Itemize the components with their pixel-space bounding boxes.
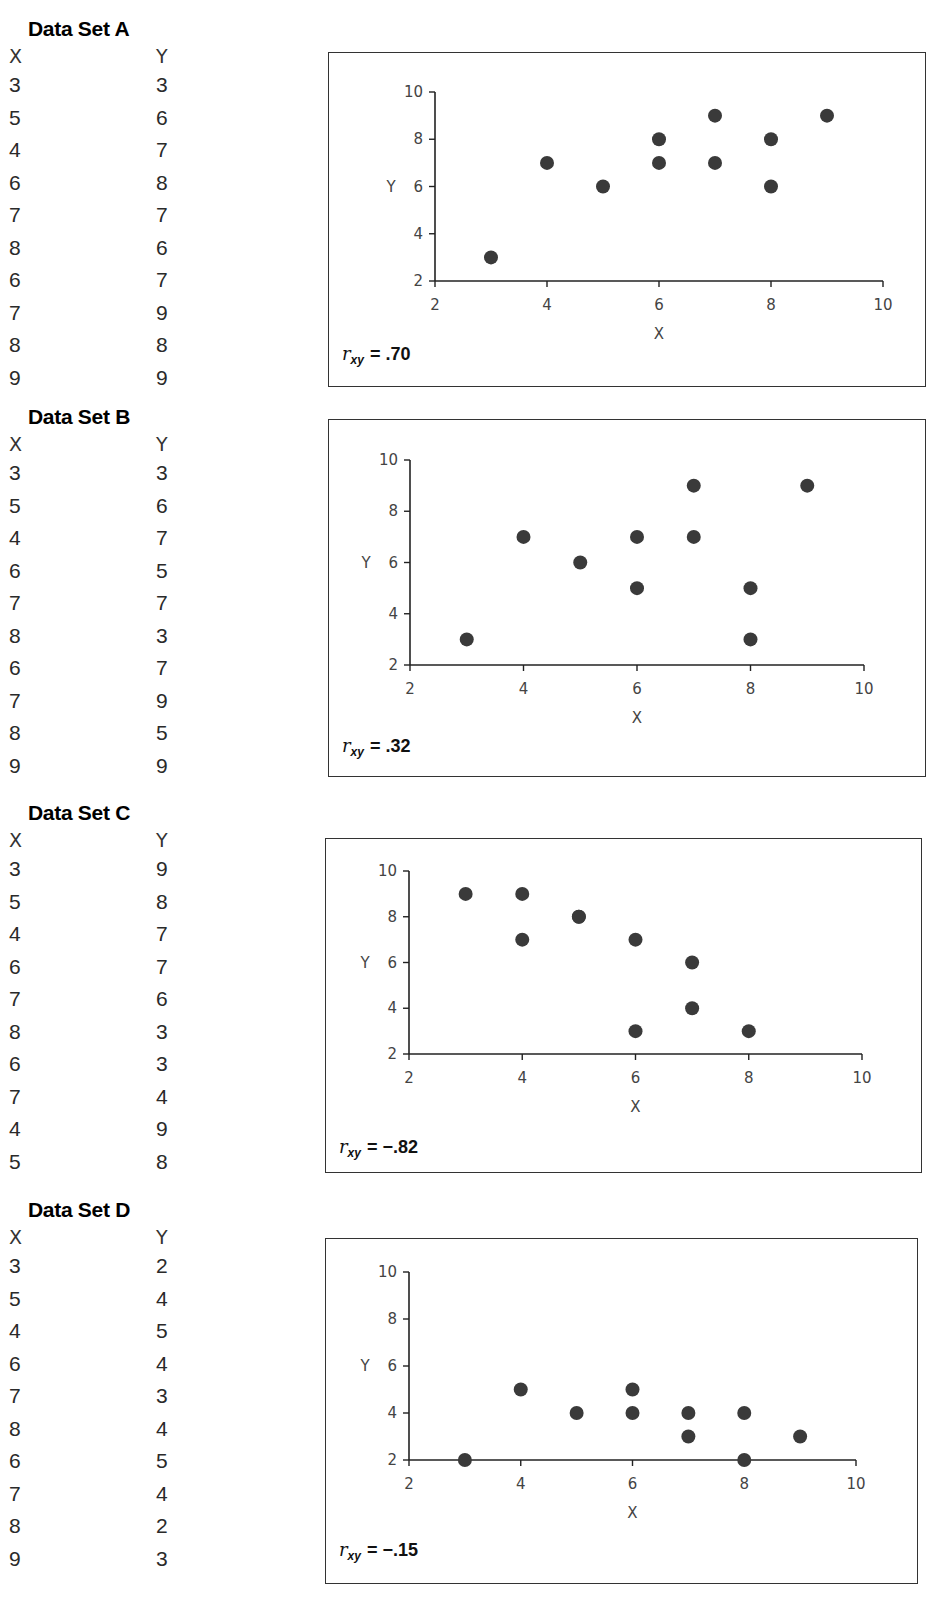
data-point — [820, 109, 834, 123]
data-point — [629, 1024, 643, 1038]
y-value: 4 — [156, 1085, 168, 1109]
table-row: 58 — [0, 890, 300, 923]
y-tick-label: 6 — [387, 1357, 397, 1375]
x-value: 5 — [9, 1150, 21, 1174]
y-tick-label: 8 — [387, 1310, 397, 1328]
x-value: 7 — [9, 689, 21, 713]
table-row: 56 — [0, 494, 300, 527]
data-point — [737, 1453, 751, 1467]
dataset-d-scatter-chart: 246810246810YX rxy= −.15 — [325, 1238, 918, 1584]
y-tick-label: 8 — [388, 502, 398, 520]
x-value: 3 — [9, 857, 21, 881]
table-row: 67 — [0, 955, 300, 988]
table-row: 56 — [0, 106, 300, 139]
y-value: 4 — [156, 1482, 168, 1506]
data-point — [626, 1406, 640, 1420]
table-row: 93 — [0, 1547, 300, 1580]
x-value: 3 — [9, 461, 21, 485]
y-tick-label: 2 — [413, 272, 423, 290]
dataset-c-plot: 246810246810YX — [326, 839, 921, 1172]
x-value: 9 — [9, 754, 21, 778]
y-value: 6 — [156, 987, 168, 1011]
data-point — [800, 479, 814, 493]
data-point — [708, 156, 722, 170]
y-value: 7 — [156, 203, 168, 227]
dataset-b-title: Data Set B — [28, 405, 130, 429]
data-point — [626, 1383, 640, 1397]
y-value: 9 — [156, 754, 168, 778]
data-point — [517, 530, 531, 544]
data-point — [764, 132, 778, 146]
table-row: 79 — [0, 689, 300, 722]
x-tick-label: 10 — [852, 1069, 871, 1087]
data-point — [708, 109, 722, 123]
y-axis-title: Y — [359, 954, 370, 972]
y-value: 3 — [156, 73, 168, 97]
x-value: 8 — [9, 1020, 21, 1044]
y-value: 4 — [156, 1352, 168, 1376]
data-point — [793, 1430, 807, 1444]
y-tick-label: 10 — [404, 83, 423, 101]
table-row: 73 — [0, 1384, 300, 1417]
x-value: 5 — [9, 890, 21, 914]
y-tick-label: 4 — [388, 605, 398, 623]
x-tick-label: 4 — [542, 296, 552, 314]
data-point — [515, 887, 529, 901]
y-value: 3 — [156, 1547, 168, 1571]
y-tick-label: 4 — [413, 225, 423, 243]
x-value: 3 — [9, 73, 21, 97]
table-row: 65 — [0, 559, 300, 592]
correlation-value: = .70 — [370, 344, 411, 364]
table-row: 83 — [0, 624, 300, 657]
y-tick-label: 6 — [387, 954, 397, 972]
x-value: 4 — [9, 138, 21, 162]
y-value: 7 — [156, 955, 168, 979]
correlation-value: = −.82 — [367, 1137, 418, 1157]
data-point — [459, 887, 473, 901]
y-tick-label: 4 — [387, 999, 397, 1017]
table-row: 85 — [0, 721, 300, 754]
y-tick-label: 6 — [388, 554, 398, 572]
dataset-a-title: Data Set A — [28, 17, 129, 41]
y-value: 8 — [156, 890, 168, 914]
x-value: 8 — [9, 236, 21, 260]
table-row: 84 — [0, 1417, 300, 1450]
table-row: 77 — [0, 203, 300, 236]
y-tick-label: 2 — [387, 1451, 397, 1469]
x-value: 6 — [9, 1352, 21, 1376]
data-point — [596, 180, 610, 194]
data-point — [572, 910, 586, 924]
table-row: 79 — [0, 301, 300, 334]
y-value: 4 — [156, 1417, 168, 1441]
dataset-d-title: Data Set D — [28, 1198, 130, 1222]
data-point — [458, 1453, 472, 1467]
x-value: 5 — [9, 494, 21, 518]
x-value: 4 — [9, 1319, 21, 1343]
table-row: 58 — [0, 1150, 300, 1183]
table-row: 99 — [0, 754, 300, 787]
y-value: 2 — [156, 1514, 168, 1538]
y-tick-label: 10 — [379, 451, 398, 469]
data-point — [687, 530, 701, 544]
table-row: 64 — [0, 1352, 300, 1385]
x-value: 9 — [9, 1547, 21, 1571]
table-row: 45 — [0, 1319, 300, 1352]
table-row: 39 — [0, 857, 300, 890]
x-value: 9 — [9, 366, 21, 390]
y-value: Y — [156, 45, 168, 67]
y-value: 5 — [156, 721, 168, 745]
x-value: 8 — [9, 721, 21, 745]
data-point — [681, 1430, 695, 1444]
table-row: 47 — [0, 526, 300, 559]
table-row: 63 — [0, 1052, 300, 1085]
dataset-c-title: Data Set C — [28, 801, 130, 825]
y-value: 3 — [156, 1052, 168, 1076]
x-value: 7 — [9, 591, 21, 615]
data-point — [744, 632, 758, 646]
y-value: 3 — [156, 461, 168, 485]
y-value: 9 — [156, 301, 168, 325]
x-value: 6 — [9, 559, 21, 583]
data-point — [685, 956, 699, 970]
dataset-a-correlation: rxy= .70 — [342, 343, 411, 365]
x-value: X — [9, 829, 22, 851]
